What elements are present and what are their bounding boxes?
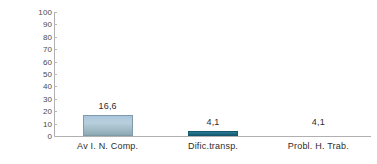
y-tick-label: 60 <box>26 59 52 67</box>
x-tick-label-1: Dific.transp. <box>153 141 273 151</box>
y-tick-label: 0 <box>26 133 52 141</box>
y-tick-label: 70 <box>26 46 52 54</box>
data-label-1: 4,1 <box>183 117 243 127</box>
x-axis-tick-labels: Av I. N. Comp. Dific.transp. Probl. H. T… <box>55 141 371 157</box>
bar-chart: % de pacientes 100 90 80 70 60 50 40 30 … <box>0 0 377 164</box>
y-tick-label: 50 <box>26 71 52 79</box>
data-label-2: 4,1 <box>288 117 348 127</box>
data-label-0: 16,6 <box>78 101 138 111</box>
bar-category-0[interactable] <box>83 115 133 136</box>
y-tick-label: 100 <box>26 9 52 17</box>
x-tick-label-2: Probl. H. Trab. <box>258 141 377 151</box>
x-axis-line <box>54 136 371 137</box>
x-tick-label-0: Av I. N. Comp. <box>48 141 168 151</box>
y-tick-label: 80 <box>26 34 52 42</box>
y-tick-label: 40 <box>26 83 52 91</box>
y-tick-label: 20 <box>26 108 52 116</box>
y-tick-label: 30 <box>26 96 52 104</box>
bar-category-1[interactable] <box>188 131 238 136</box>
y-axis-tick-labels: 100 90 80 70 60 50 40 30 20 10 0 <box>26 9 52 137</box>
plot-area: 16,6 4,1 4,1 <box>55 12 371 136</box>
y-tick-label: 10 <box>26 121 52 129</box>
y-tick-label: 90 <box>26 21 52 29</box>
